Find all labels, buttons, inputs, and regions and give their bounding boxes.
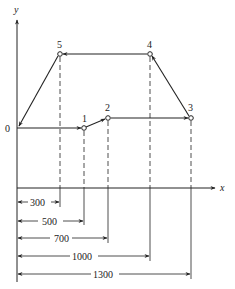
- point-3: [189, 116, 194, 121]
- dimension-label-300: 300: [30, 197, 45, 208]
- point-label-5: 5: [57, 39, 62, 50]
- x-axis-label: x: [219, 182, 225, 193]
- path-3-4: [152, 56, 189, 116]
- point-1: [82, 126, 87, 131]
- path-1-2: [86, 119, 105, 127]
- tool-path-diagram: y x 0 1 2 3 4 5: [0, 0, 235, 289]
- dimension-label-500: 500: [42, 216, 57, 227]
- dimension-label-1300: 1300: [93, 269, 113, 280]
- point-label-3: 3: [188, 102, 193, 113]
- dimension-label-700: 700: [54, 233, 69, 244]
- point-label-1: 1: [82, 113, 87, 124]
- point-4: [148, 52, 153, 57]
- point-2: [106, 116, 111, 121]
- point-5: [58, 52, 63, 57]
- dimension-label-1000: 1000: [72, 251, 92, 262]
- point-label-0: 0: [5, 123, 10, 134]
- path-5-0: [19, 56, 58, 126]
- tool-path: [17, 54, 189, 128]
- extension-lines: [60, 188, 191, 279]
- point-label-4: 4: [147, 39, 152, 50]
- axes: [17, 20, 215, 282]
- dimension-lines: [18, 202, 190, 274]
- y-axis-label: y: [13, 4, 19, 15]
- point-label-2: 2: [105, 102, 110, 113]
- projection-lines: [60, 57, 191, 188]
